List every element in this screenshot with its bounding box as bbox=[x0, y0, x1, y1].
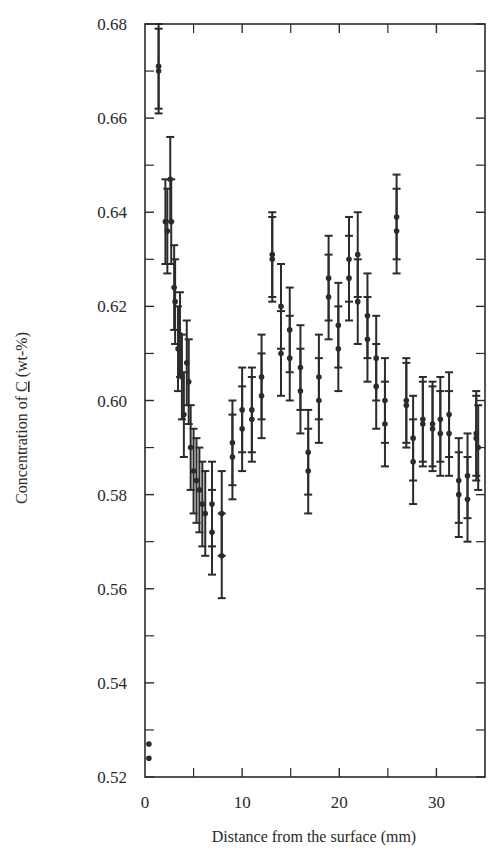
data-point bbox=[404, 402, 410, 408]
data-point bbox=[305, 468, 311, 474]
x-tick-label: 0 bbox=[141, 793, 150, 812]
data-point bbox=[410, 459, 416, 465]
x-axis: 0102030 bbox=[141, 24, 445, 812]
data-point bbox=[269, 257, 275, 263]
data-point bbox=[278, 304, 284, 310]
y-tick-label: 0.62 bbox=[97, 297, 127, 316]
data-point bbox=[209, 529, 215, 535]
data-point bbox=[326, 294, 332, 300]
data-point bbox=[202, 511, 208, 517]
data-point bbox=[394, 228, 400, 234]
x-tick-label: 20 bbox=[331, 793, 348, 812]
data-point bbox=[446, 431, 452, 437]
data-point bbox=[420, 421, 426, 427]
data-point bbox=[465, 497, 471, 503]
y-tick-label: 0.52 bbox=[97, 768, 127, 787]
data-point bbox=[146, 755, 152, 761]
y-axis-title: Concentration of C (wt-%) bbox=[13, 332, 31, 504]
data-point bbox=[156, 68, 162, 74]
data-point bbox=[165, 228, 171, 234]
data-point bbox=[287, 355, 293, 361]
data-point bbox=[336, 346, 342, 352]
data-point bbox=[373, 384, 379, 390]
data-point bbox=[475, 445, 481, 451]
y-tick-label: 0.54 bbox=[97, 674, 127, 693]
data-series bbox=[146, 24, 482, 761]
data-point bbox=[456, 492, 462, 498]
data-point bbox=[181, 412, 187, 418]
data-point bbox=[298, 388, 304, 394]
data-point bbox=[239, 426, 245, 432]
data-point bbox=[346, 275, 352, 281]
data-point bbox=[382, 421, 388, 427]
plot-border bbox=[145, 24, 485, 777]
y-tick-label: 0.58 bbox=[97, 486, 127, 505]
data-point bbox=[172, 299, 178, 305]
data-point bbox=[259, 393, 265, 399]
data-point bbox=[219, 553, 225, 559]
y-axis-title-symbol: C bbox=[13, 381, 30, 392]
data-point bbox=[355, 299, 361, 305]
data-point bbox=[316, 398, 322, 404]
data-point bbox=[355, 252, 361, 258]
data-point bbox=[249, 417, 255, 423]
chart: 0.520.540.560.580.600.620.640.660.68 010… bbox=[0, 0, 499, 868]
y-tick-label: 0.60 bbox=[97, 392, 127, 411]
data-point bbox=[278, 351, 284, 357]
y-tick-label: 0.66 bbox=[97, 109, 127, 128]
y-axis-title-suffix: (wt-%) bbox=[13, 332, 31, 381]
data-point bbox=[365, 337, 371, 343]
y-tick-label: 0.56 bbox=[97, 580, 127, 599]
data-point bbox=[168, 219, 174, 225]
x-tick-label: 30 bbox=[428, 793, 445, 812]
y-tick-label: 0.64 bbox=[97, 203, 127, 222]
data-point bbox=[186, 379, 192, 385]
y-tick-label: 0.68 bbox=[97, 15, 127, 34]
x-tick-label: 10 bbox=[234, 793, 251, 812]
data-point bbox=[146, 741, 152, 747]
data-point bbox=[430, 426, 436, 432]
x-axis-title: Distance from the surface (mm) bbox=[212, 828, 416, 846]
data-point bbox=[230, 454, 236, 460]
y-axis-title-prefix: Concentration of bbox=[13, 392, 30, 504]
plot-frame bbox=[145, 24, 485, 777]
data-point bbox=[438, 431, 444, 437]
